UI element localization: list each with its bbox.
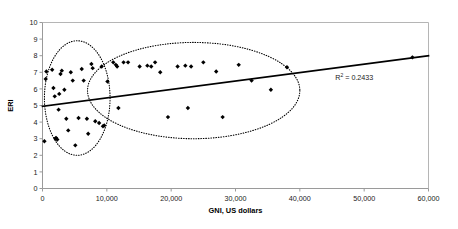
data-point (166, 115, 170, 119)
data-point (97, 121, 101, 125)
data-point (66, 128, 70, 132)
y-tick-label: 10 (30, 18, 38, 27)
data-point (269, 88, 273, 92)
data-point (81, 78, 85, 82)
data-point (116, 106, 120, 110)
data-point (175, 64, 179, 68)
data-point (90, 66, 94, 70)
data-point (145, 63, 149, 67)
data-point (158, 70, 162, 74)
y-tick-label: 4 (34, 118, 38, 127)
chart-canvas: 012345678910010,00020,00030,00040,00050,… (0, 0, 458, 229)
data-point (214, 69, 218, 73)
x-tick-label: 10,000 (96, 194, 118, 203)
y-tick-label: 3 (34, 134, 38, 143)
x-tick-label: 60,000 (418, 194, 440, 203)
data-point (237, 63, 241, 67)
x-axis-title: GNI, US dollars (209, 206, 263, 215)
data-point (85, 117, 89, 121)
data-point (44, 69, 48, 73)
data-point (93, 119, 97, 123)
data-point (153, 60, 157, 64)
data-point (285, 65, 289, 69)
data-point (121, 60, 125, 64)
y-tick-label: 8 (34, 51, 38, 60)
data-point (56, 107, 60, 111)
data-point (189, 64, 193, 68)
y-tick-label: 9 (34, 35, 38, 44)
data-point (186, 106, 190, 110)
y-axis-title: ERI (6, 99, 15, 111)
data-point (86, 132, 90, 136)
x-tick-label: 20,000 (160, 194, 182, 203)
y-tick-label: 7 (34, 68, 38, 77)
data-point (53, 94, 57, 98)
data-point (71, 78, 75, 82)
data-point (149, 64, 153, 68)
data-point (410, 55, 414, 59)
y-tick-label: 0 (34, 184, 38, 193)
data-point (201, 60, 205, 64)
data-point (51, 86, 55, 90)
x-tick-label: 40,000 (289, 194, 311, 203)
data-point (50, 68, 54, 72)
r-squared-value: = 0.2433 (343, 73, 373, 82)
y-tick-label: 6 (34, 85, 38, 94)
data-point (137, 64, 141, 68)
data-point (62, 88, 66, 92)
y-tick-label: 2 (34, 151, 38, 160)
data-point (126, 60, 130, 64)
data-point (73, 143, 77, 147)
r-squared-label: R2 = 0.2433 (335, 72, 373, 82)
y-tick-label: 5 (34, 101, 38, 110)
data-point (80, 67, 84, 71)
x-tick-label: 50,000 (353, 194, 375, 203)
y-tick-label: 1 (34, 168, 38, 177)
data-point (220, 115, 224, 119)
x-tick-label: 0 (41, 194, 45, 203)
scatter-chart: 012345678910010,00020,00030,00040,00050,… (0, 0, 458, 229)
data-point (183, 63, 187, 67)
data-point (64, 117, 68, 121)
data-point (89, 62, 93, 66)
data-point (44, 77, 48, 81)
data-point (76, 116, 80, 120)
higher-income-cluster-ellipse (88, 42, 300, 138)
data-point (69, 70, 73, 74)
data-point (57, 92, 61, 96)
x-tick-label: 30,000 (225, 194, 247, 203)
